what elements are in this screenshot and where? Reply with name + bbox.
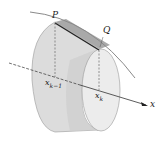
frustum-figure: [0, 0, 164, 141]
label-p: P: [52, 11, 58, 20]
label-q: Q: [103, 26, 110, 35]
label-x-axis: x: [150, 100, 155, 109]
frustum-end-face: [82, 49, 120, 131]
frustum-diagram: P Q xk−1 xk x: [0, 0, 164, 141]
label-x-k-minus-1: xk−1: [45, 79, 62, 89]
label-x-k: xk: [95, 92, 103, 102]
x-axis-arrow-icon: [141, 102, 148, 106]
